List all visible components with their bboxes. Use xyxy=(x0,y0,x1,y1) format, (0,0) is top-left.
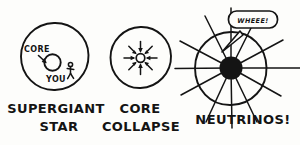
panel-caption-line-1: CORE xyxy=(119,101,160,116)
panel-caption-line-1: NEUTRINOS! xyxy=(195,112,290,127)
panel-supergiant-star: CORE YOU SUPERGIANT STAR xyxy=(7,23,105,134)
panel-caption-line-2: COLLAPSE xyxy=(102,119,180,134)
black-core-disc xyxy=(220,57,243,80)
stick-figure xyxy=(67,62,74,78)
comic-canvas: CORE YOU SUPERGIANT STAR xyxy=(0,0,300,145)
core-label: CORE xyxy=(24,45,50,54)
you-label: YOU xyxy=(45,75,66,84)
panel-neutrinos: WHEEE! NEUTRINOS! xyxy=(175,8,300,128)
outer-star-circle xyxy=(111,27,172,88)
panel-core-collapse: CORE COLLAPSE xyxy=(102,27,180,134)
speech-bubble-text: WHEEE! xyxy=(237,17,268,25)
core-circle xyxy=(44,54,60,70)
panel-caption-line-2: STAR xyxy=(40,119,79,134)
panel-caption-line-1: SUPERGIANT xyxy=(7,101,105,116)
collapsing-core-circle xyxy=(136,54,145,63)
inward-arrows xyxy=(124,42,157,75)
comic-strip: CORE YOU SUPERGIANT STAR xyxy=(0,0,300,145)
